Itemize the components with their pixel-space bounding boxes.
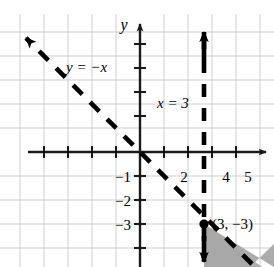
- x-tick-label-2: 2: [180, 169, 188, 185]
- y-tick-label-neg1: −1: [115, 169, 131, 185]
- y-tick-label-neg3: −3: [115, 217, 131, 233]
- x-tick-label-4: 4: [222, 169, 230, 185]
- y-axis-label: y: [118, 16, 128, 34]
- line-label-y-equals-negative-x: y = −x: [64, 59, 107, 75]
- intersection-point-marker: [199, 219, 208, 228]
- x-tick-label-5: 5: [244, 169, 252, 185]
- y-tick-label-neg2: −2: [115, 193, 131, 209]
- point-label-3-neg3: (3, −3): [212, 216, 253, 233]
- graph-figure: y y = −x x = 3 (3, −3) 2 4 5 −1 −2 −3: [0, 0, 274, 267]
- coordinate-plane-svg: y y = −x x = 3 (3, −3) 2 4 5 −1 −2 −3: [0, 0, 274, 267]
- line-label-x-equals-3: x = 3: [156, 95, 189, 111]
